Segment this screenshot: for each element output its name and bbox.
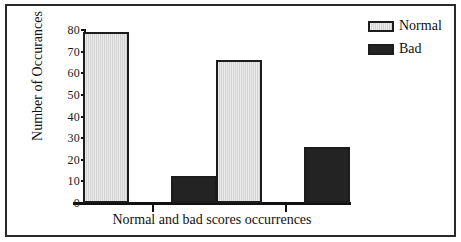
y-axis-label: Number of Occurances [30, 1, 46, 151]
y-tick-mark [81, 29, 86, 31]
chart-legend: Normal Bad [368, 19, 458, 65]
y-tick-label: 0 [58, 197, 80, 209]
y-tick-label: 40 [58, 111, 80, 123]
bar-bad-group1 [171, 176, 217, 203]
y-tick-label: 10 [58, 175, 80, 187]
legend-item-bad: Bad [368, 42, 458, 56]
bar-normal-group1 [83, 32, 129, 203]
y-tick-label: 60 [58, 67, 80, 79]
y-tick-label: 50 [58, 89, 80, 101]
legend-label-bad: Bad [399, 42, 422, 56]
legend-item-normal: Normal [368, 19, 458, 33]
x-tick-mark-2 [285, 205, 287, 212]
x-tick-mark-1 [152, 205, 154, 212]
x-axis-label: Normal and bad scores occurrences [73, 212, 351, 228]
plot-area: 01020304050607080 Number of Occurances N… [0, 0, 461, 242]
y-tick-label: 70 [58, 46, 80, 58]
legend-swatch-bad-icon [368, 44, 394, 55]
y-tick-label: 30 [58, 132, 80, 144]
legend-swatch-normal-icon [368, 21, 394, 32]
chart-figure: 01020304050607080 Number of Occurances N… [0, 0, 461, 242]
legend-label-normal: Normal [399, 19, 442, 33]
bar-bad-group2 [304, 147, 350, 203]
y-tick-label: 20 [58, 154, 80, 166]
bar-normal-group2 [216, 60, 262, 203]
y-tick-label: 80 [58, 24, 80, 36]
